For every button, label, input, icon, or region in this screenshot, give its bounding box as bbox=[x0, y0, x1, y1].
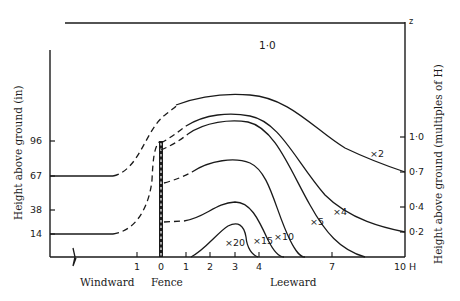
left-tick-38: 38 bbox=[30, 205, 42, 215]
right-tick-1-0: 1·0 bbox=[409, 132, 424, 142]
right-tick-0-7: 0·7 bbox=[409, 167, 424, 177]
right-tick-0-2: 0·2 bbox=[409, 227, 424, 237]
right-axis-title: Height above ground (multiples of H) bbox=[432, 64, 444, 264]
contour-label-x4: ×4 bbox=[333, 207, 347, 217]
x-tick-4: 4 bbox=[256, 262, 262, 272]
x-tick-1: 1 bbox=[183, 262, 189, 272]
undisturbed-value-label: 1·0 bbox=[259, 40, 276, 50]
left-axis-title: Height above ground (in) bbox=[12, 85, 24, 220]
contour-x4-solid bbox=[186, 114, 405, 232]
contour-label-x5: ×5 bbox=[310, 217, 324, 227]
x-tick-2: 2 bbox=[207, 262, 213, 272]
contour-x2-dashed bbox=[113, 105, 176, 176]
contour-diagram bbox=[0, 0, 460, 301]
contour-label-x20: ×20 bbox=[225, 238, 245, 248]
right-axis-title-text: Height above ground (multiples of H) bbox=[432, 64, 444, 264]
leeward-label: Leeward bbox=[270, 277, 316, 287]
x-tick-3: 3 bbox=[232, 262, 238, 272]
contour-label-x2: ×2 bbox=[370, 149, 384, 159]
windward-label: Windward bbox=[80, 277, 134, 287]
x-tick-10h: 10 H bbox=[394, 262, 416, 272]
contour-label-x15: ×15 bbox=[253, 236, 273, 246]
contour-x4-dashed bbox=[161, 126, 186, 143]
left-axis-ticks bbox=[50, 141, 55, 234]
x-tick-windward-1: 1 bbox=[134, 262, 140, 272]
x-tick-0: 0 bbox=[158, 262, 164, 272]
left-tick-67: 67 bbox=[30, 171, 42, 181]
left-tick-14: 14 bbox=[30, 229, 42, 239]
contour-x10-dashed bbox=[113, 142, 159, 234]
contour-x2-solid bbox=[176, 94, 405, 172]
right-axis-ticks bbox=[400, 137, 405, 232]
contour-x15-dashed bbox=[164, 221, 184, 222]
contour-x5-dashed bbox=[161, 134, 188, 150]
x-tick-7: 7 bbox=[329, 262, 335, 272]
contour-x15-solid bbox=[184, 202, 284, 257]
left-tick-96: 96 bbox=[30, 136, 42, 146]
corner-mark: z bbox=[409, 17, 413, 27]
right-tick-0-4: 0·4 bbox=[409, 202, 424, 212]
fence bbox=[159, 141, 163, 257]
fence-label: Fence bbox=[151, 277, 183, 287]
contour-x10-lee-dashed bbox=[164, 172, 192, 183]
contour-label-x10: ×10 bbox=[274, 232, 294, 242]
